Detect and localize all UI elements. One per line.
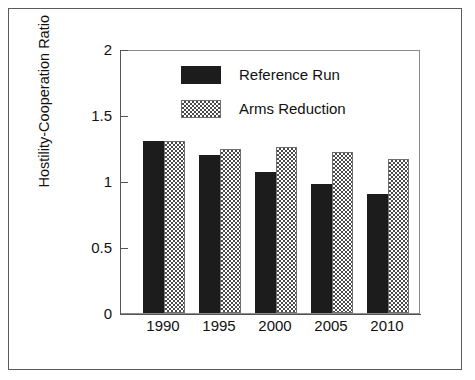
bar-2005-arms-reduction	[332, 152, 353, 313]
bar-2000-arms-reduction	[276, 147, 297, 313]
plot-area: Reference Run Arms Reduction	[120, 50, 420, 314]
chart-legend: Reference Run Arms Reduction	[181, 61, 401, 129]
y-tick-label: 1	[104, 174, 112, 189]
y-tick-label: 1.5	[91, 108, 112, 123]
y-tick-mark	[121, 116, 128, 117]
x-axis-line	[120, 314, 421, 315]
legend-item-arms-reduction: Arms Reduction	[181, 95, 401, 122]
bar-1995-reference-run	[199, 155, 220, 313]
legend-swatch-arms-reduction	[181, 100, 221, 118]
y-tick-label: 2	[104, 42, 112, 57]
bar-1990-reference-run	[143, 141, 164, 313]
x-tick-label: 2010	[357, 318, 417, 333]
bar-2010-reference-run	[367, 194, 388, 313]
y-tick-label: 0.5	[91, 240, 112, 255]
legend-label-arms-reduction: Arms Reduction	[239, 101, 346, 116]
bar-2000-reference-run	[255, 172, 276, 313]
bar-2010-arms-reduction	[388, 159, 409, 313]
bar-1990-arms-reduction	[164, 141, 185, 313]
x-tick-label: 1995	[189, 318, 249, 333]
legend-label-reference-run: Reference Run	[239, 67, 340, 82]
y-tick-label: 0	[104, 306, 112, 321]
x-tick-label: 2000	[245, 318, 305, 333]
y-tick-mark	[121, 182, 128, 183]
bar-1995-arms-reduction	[220, 149, 241, 313]
y-axis-tick-labels: 00.511.52	[78, 0, 112, 380]
x-tick-label: 2005	[301, 318, 361, 333]
x-tick-label: 1990	[133, 318, 193, 333]
y-tick-mark	[121, 314, 128, 315]
y-tick-mark	[121, 248, 128, 249]
bar-2005-reference-run	[311, 184, 332, 313]
legend-swatch-reference-run	[181, 66, 221, 84]
legend-item-reference-run: Reference Run	[181, 61, 401, 88]
y-tick-mark	[121, 50, 128, 51]
chart-figure: Hostility-Cooperation Ratio 00.511.52 Re…	[0, 0, 475, 380]
y-axis-title: Hostility-Cooperation Ratio	[37, 13, 52, 189]
